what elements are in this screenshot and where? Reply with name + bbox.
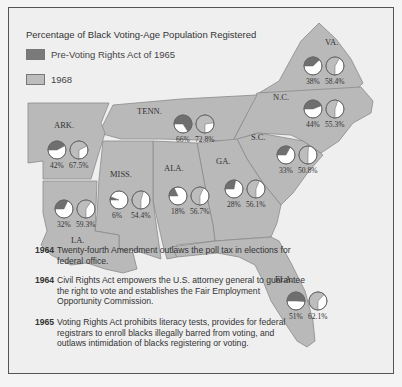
map-title: Percentage of Black Voting-Age Populatio… [26,29,256,40]
timeline-text: Twenty-fourth Amendment outlaws the poll… [57,245,305,266]
pct-1968: 50.8% [298,166,317,175]
timeline-year: 1965 [35,317,57,349]
pct-pre-1965: 44% [306,120,320,129]
pct-1968: 56.1% [246,200,265,209]
pct-pre-1965: 42% [50,161,64,170]
timeline-entry: 1965 Voting Rights Act prohibits literac… [35,317,305,349]
pct-1968: 62.1% [308,312,327,321]
pct-1968: 58.4% [325,77,344,86]
legend-label: Pre-Voting Rights Act of 1965 [51,49,175,60]
timeline-entry: 1964 Twenty-fourth Amendment outlaws the… [35,245,305,266]
pct-1968: 55.3% [325,120,344,129]
state-label: LA. [71,235,84,245]
legend-label: 1968 [51,74,72,85]
timeline-text: Civil Rights Act empowers the U.S. attor… [57,275,305,307]
state-label: MISS. [110,169,132,179]
pct-1968: 56.7% [190,207,209,216]
state-label: S.C. [251,132,266,142]
map-figure: Percentage of Black Voting-Age Populatio… [8,7,394,374]
state-label: ALA. [164,163,184,173]
pct-pre-1965: 33% [279,166,293,175]
pct-pre-1965: 6% [112,211,122,220]
legend-swatch-1968 [26,74,45,85]
timeline-year: 1964 [35,275,57,307]
timeline-text: Voting Rights Act prohibits literacy tes… [57,317,305,349]
pct-pre-1965: 28% [227,200,241,209]
legend-swatch-pre-1965 [26,49,45,60]
state-label: TENN. [137,106,162,116]
pct-1968: 54.4% [131,211,150,220]
state-label: VA. [325,37,338,47]
pct-1968: 67.5% [69,161,88,170]
pct-pre-1965: 38% [306,77,320,86]
pct-pre-1965: 66% [176,135,190,144]
legend-item-pre-1965: Pre-Voting Rights Act of 1965 [26,49,175,60]
state-label: ARK. [54,120,74,130]
state-label: N.C. [273,92,289,102]
pct-1968: 72.8% [195,135,214,144]
timeline-entry: 1964 Civil Rights Act empowers the U.S. … [35,275,305,307]
pct-pre-1965: 32% [57,220,71,229]
pct-1968: 59.3% [76,220,95,229]
legend-item-1968: 1968 [26,74,72,85]
state-label: GA. [216,156,230,166]
timeline-year: 1964 [35,245,57,266]
pct-pre-1965: 18% [171,207,185,216]
